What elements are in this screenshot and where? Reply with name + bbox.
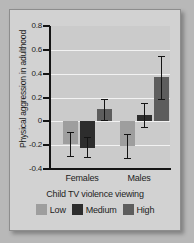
legend: LowMediumHigh bbox=[10, 204, 180, 215]
error-bar bbox=[144, 103, 145, 127]
y-axis-tick-label: -0.4 bbox=[8, 165, 42, 173]
group-label-females: Females bbox=[52, 173, 112, 183]
group-label-males: Males bbox=[109, 173, 169, 183]
legend-item-medium[interactable]: Medium bbox=[72, 204, 117, 215]
error-bar-cap bbox=[124, 158, 131, 159]
gridline bbox=[50, 50, 170, 51]
bar-chart: -0.4-0.200.20.40.60.8 Physical aggressio… bbox=[10, 10, 180, 230]
error-bar-cap bbox=[158, 56, 165, 57]
error-bar-cap bbox=[141, 103, 148, 104]
error-bar bbox=[70, 132, 71, 156]
error-bar-cap bbox=[101, 99, 108, 100]
y-axis-tick bbox=[43, 144, 50, 146]
gridline bbox=[50, 145, 170, 146]
error-bar bbox=[87, 137, 88, 157]
legend-swatch-low bbox=[36, 204, 47, 215]
legend-item-low[interactable]: Low bbox=[36, 204, 66, 215]
y-axis-tick bbox=[43, 49, 50, 51]
y-axis-tick bbox=[43, 73, 50, 75]
legend-swatch-medium bbox=[72, 204, 83, 215]
x-axis-line bbox=[49, 168, 171, 170]
y-axis-tick bbox=[43, 97, 50, 99]
legend-label: High bbox=[137, 205, 155, 215]
y-axis-title: Physical aggression in adulthood bbox=[18, 19, 28, 159]
legend-label: Medium bbox=[86, 205, 117, 215]
error-bar bbox=[161, 56, 162, 99]
y-axis-tick bbox=[43, 25, 50, 27]
screenshot-root: -0.4-0.200.20.40.60.8 Physical aggressio… bbox=[0, 0, 194, 243]
legend-item-high[interactable]: High bbox=[123, 204, 155, 215]
error-bar-cap bbox=[67, 156, 74, 157]
plot-area bbox=[50, 26, 170, 169]
y-axis-tick bbox=[43, 120, 50, 122]
error-bar-cap bbox=[67, 132, 74, 133]
gridline bbox=[50, 74, 170, 75]
error-bar-cap bbox=[84, 137, 91, 138]
legend-swatch-high bbox=[123, 204, 134, 215]
x-axis-title: Child TV violence viewing bbox=[10, 189, 180, 199]
gridline bbox=[50, 98, 170, 99]
error-bar-cap bbox=[124, 134, 131, 135]
error-bar bbox=[104, 99, 105, 120]
error-bar-cap bbox=[158, 99, 165, 100]
error-bar bbox=[127, 134, 128, 158]
y-axis-tick bbox=[43, 168, 50, 170]
figure-card: -0.4-0.200.20.40.60.8 Physical aggressio… bbox=[9, 9, 181, 231]
error-bar-cap bbox=[141, 127, 148, 128]
legend-label: Low bbox=[50, 205, 66, 215]
error-bar-cap bbox=[84, 157, 91, 158]
error-bar-cap bbox=[101, 120, 108, 121]
